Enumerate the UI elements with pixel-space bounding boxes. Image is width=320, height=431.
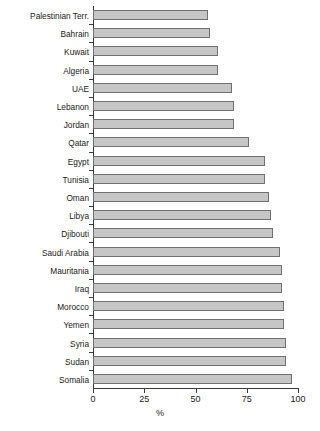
x-tick-mark xyxy=(247,389,248,393)
category-label: Palestinian Terr. xyxy=(30,11,89,21)
category-label: Iraq xyxy=(75,284,89,294)
x-tick-label: 100 xyxy=(278,394,318,405)
bar xyxy=(93,83,232,93)
bar xyxy=(93,319,284,329)
x-tick-mark xyxy=(93,389,94,393)
bar xyxy=(93,101,234,111)
y-tick-mark xyxy=(89,315,93,316)
category-label: Lebanon xyxy=(57,102,89,112)
bar xyxy=(93,374,292,384)
bar-chart: Palestinian Terr.BahrainKuwaitAlgeriaUAE… xyxy=(0,0,320,431)
bar xyxy=(93,247,280,257)
bar xyxy=(93,10,208,20)
bar xyxy=(93,28,210,38)
bar xyxy=(93,137,249,147)
y-tick-mark xyxy=(89,370,93,371)
x-tick-label: 50 xyxy=(176,394,216,405)
y-tick-mark xyxy=(89,170,93,171)
category-label: Morocco xyxy=(57,302,89,312)
bar xyxy=(93,192,269,202)
x-axis-title: % xyxy=(0,408,320,418)
y-tick-mark xyxy=(89,279,93,280)
bar xyxy=(93,46,218,56)
category-label: Sudan xyxy=(65,357,89,367)
category-label: Somalia xyxy=(59,375,89,385)
x-tick-label: 25 xyxy=(124,394,164,405)
y-tick-mark xyxy=(89,242,93,243)
y-tick-mark xyxy=(89,42,93,43)
bar xyxy=(93,228,273,238)
plot-area: Palestinian Terr.BahrainKuwaitAlgeriaUAE… xyxy=(0,0,320,431)
y-tick-mark xyxy=(89,79,93,80)
category-label: Algeria xyxy=(63,66,89,76)
bar xyxy=(93,210,271,220)
bar xyxy=(93,301,284,311)
category-label: Oman xyxy=(66,193,89,203)
bar xyxy=(93,119,234,129)
category-label: Libya xyxy=(69,211,89,221)
bar xyxy=(93,356,286,366)
bar xyxy=(93,65,218,75)
category-label: Qatar xyxy=(68,138,89,148)
y-tick-mark xyxy=(89,61,93,62)
bar xyxy=(93,174,265,184)
y-tick-mark xyxy=(89,152,93,153)
y-tick-mark xyxy=(89,352,93,353)
bar xyxy=(93,283,282,293)
y-tick-mark xyxy=(89,133,93,134)
bar xyxy=(93,156,265,166)
y-tick-mark xyxy=(89,261,93,262)
category-label: Djibouti xyxy=(61,229,89,239)
x-tick-label: 0 xyxy=(73,394,113,405)
category-label: UAE xyxy=(72,84,89,94)
x-tick-mark xyxy=(144,389,145,393)
y-tick-mark xyxy=(89,97,93,98)
category-label: Tunisia xyxy=(63,175,89,185)
bar xyxy=(93,338,286,348)
bar xyxy=(93,265,282,275)
category-label: Egypt xyxy=(68,157,89,167)
category-label: Kuwait xyxy=(64,47,89,57)
x-tick-label: 75 xyxy=(227,394,267,405)
y-tick-mark xyxy=(89,24,93,25)
category-label: Bahrain xyxy=(60,29,89,39)
x-tick-mark xyxy=(298,389,299,393)
y-tick-mark xyxy=(89,206,93,207)
y-tick-mark xyxy=(89,188,93,189)
category-label: Saudi Arabia xyxy=(42,248,89,258)
y-tick-mark xyxy=(89,297,93,298)
category-label: Syria xyxy=(70,339,89,349)
category-label: Jordan xyxy=(64,120,89,130)
y-tick-mark xyxy=(89,333,93,334)
category-label: Mauritania xyxy=(50,266,89,276)
x-tick-mark xyxy=(196,389,197,393)
y-tick-mark xyxy=(89,115,93,116)
y-tick-mark xyxy=(89,224,93,225)
category-label: Yemen xyxy=(63,320,89,330)
